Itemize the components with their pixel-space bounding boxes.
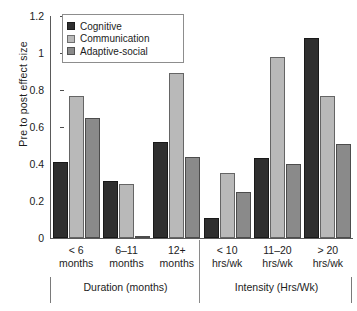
legend-swatch-cognitive xyxy=(67,22,75,30)
x-category-label: 12+months xyxy=(152,244,202,270)
legend-swatch-adaptive-social xyxy=(67,47,75,55)
x-category-label: > 20hrs/wk xyxy=(303,244,353,270)
bar xyxy=(286,164,301,238)
x-category-label: 6–11months xyxy=(101,244,151,270)
x-category-label-line: 11–20 xyxy=(252,244,302,257)
x-category-label: < 10hrs/wk xyxy=(202,244,252,270)
group-band-axis: Duration (months)Intensity (Hrs/Wk) xyxy=(50,277,353,303)
x-category-label-line: > 20 xyxy=(303,244,353,257)
bar xyxy=(153,142,168,238)
bar-chart-figure: Pre to post effect size 00.20.40.60.811.… xyxy=(0,0,357,311)
x-category-label-line: months xyxy=(101,257,151,270)
y-tick-label: 0.2 xyxy=(14,195,44,207)
x-category-label-line: < 6 xyxy=(51,244,101,257)
x-category-label: 11–20hrs/wk xyxy=(252,244,302,270)
x-category-label-line: hrs/wk xyxy=(252,257,302,270)
legend-swatch-communication xyxy=(67,35,75,43)
band-edge-tick xyxy=(351,277,352,303)
legend-item: Adaptive-social xyxy=(67,46,178,57)
bar xyxy=(135,236,150,238)
bar xyxy=(336,144,351,238)
bar xyxy=(53,162,68,238)
bar-group xyxy=(202,16,252,238)
bar xyxy=(85,118,100,238)
x-category-label-line: < 10 xyxy=(202,244,252,257)
bar xyxy=(236,192,251,238)
y-tick-label: 1.2 xyxy=(14,10,44,22)
y-tick-label: 1 xyxy=(14,47,44,59)
legend-label-adaptive-social: Adaptive-social xyxy=(80,46,148,57)
bar xyxy=(119,184,134,238)
x-category-label-line: 6–11 xyxy=(101,244,151,257)
bar xyxy=(254,158,269,238)
x-category-label-line: hrs/wk xyxy=(202,257,252,270)
bar xyxy=(169,73,184,238)
bar xyxy=(304,38,319,238)
chart-legend: Cognitive Communication Adaptive-social xyxy=(62,14,184,63)
band-label: Intensity (Hrs/Wk) xyxy=(201,281,352,293)
x-category-label: < 6months xyxy=(51,244,101,270)
y-tick-label: 0.8 xyxy=(14,84,44,96)
legend-label-communication: Communication xyxy=(80,33,149,44)
bar xyxy=(320,96,335,238)
y-axis-tick-labels: 00.20.40.60.811.2 xyxy=(14,0,44,311)
x-category-label-line: hrs/wk xyxy=(303,257,353,270)
bar xyxy=(69,96,84,238)
y-tick-label: 0 xyxy=(14,232,44,244)
bar xyxy=(185,157,200,238)
x-axis-line xyxy=(50,238,353,239)
band-label: Duration (months) xyxy=(50,281,201,293)
y-tick-label: 0.6 xyxy=(14,121,44,133)
bar-group xyxy=(303,16,353,238)
band-edge-tick xyxy=(50,277,51,303)
bar xyxy=(204,218,219,238)
x-category-label-line: months xyxy=(51,257,101,270)
bar xyxy=(103,181,118,238)
legend-item: Communication xyxy=(67,33,178,44)
x-category-label-line: months xyxy=(152,257,202,270)
bar-group xyxy=(252,16,302,238)
y-tick-label: 0.4 xyxy=(14,158,44,170)
bar xyxy=(270,57,285,238)
legend-item: Cognitive xyxy=(67,21,178,32)
legend-label-cognitive: Cognitive xyxy=(80,21,122,32)
bar xyxy=(220,173,235,238)
x-category-label-line: 12+ xyxy=(152,244,202,257)
